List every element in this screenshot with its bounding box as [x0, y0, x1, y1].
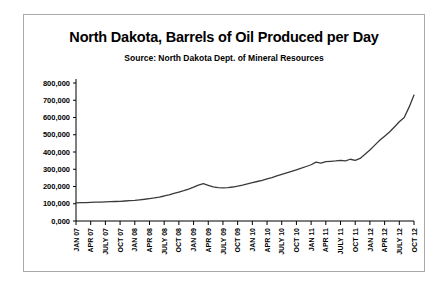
x-axis-tick-label: JAN 09 [190, 228, 197, 252]
y-axis-tick-label: 800,000 [43, 79, 70, 88]
x-axis-tick-label: JAN 07 [73, 228, 80, 252]
x-axis-tick-label: OCT 07 [117, 228, 124, 253]
x-axis-tick-label: JAN 08 [131, 228, 138, 252]
x-axis-tick-label: OCT 12 [411, 228, 418, 253]
x-axis-tick-label: JULY 07 [102, 228, 109, 255]
x-axis-tick-label: JULY 08 [161, 228, 168, 255]
y-axis-tick-label: 400,000 [43, 148, 70, 157]
y-axis-tick-label: 200,000 [43, 182, 70, 191]
x-axis-tick-label: APR 09 [205, 228, 212, 253]
x-axis-tick-label: JAN 12 [367, 228, 374, 252]
x-axis-tick-label: APR 10 [264, 228, 271, 253]
x-axis: JAN 07APR 07JULY 07OCT 07JAN 08APR 08JUL… [73, 221, 418, 255]
x-axis-tick-label: APR 12 [381, 228, 388, 253]
y-axis-tick-label: 700,000 [43, 96, 70, 105]
x-axis-tick-label: JAN 10 [249, 228, 256, 252]
x-axis-tick-label: JAN 11 [308, 228, 315, 251]
x-axis-tick-label: JULY 11 [337, 228, 344, 255]
y-axis-tick-label: 500,000 [43, 130, 70, 139]
oil-production-line [76, 95, 414, 203]
x-axis-tick-label: OCT 10 [293, 228, 300, 253]
x-axis-tick-label: APR 07 [87, 228, 94, 253]
chart-figure: North Dakota, Barrels of Oil Produced pe… [23, 14, 425, 272]
x-axis-tick-label: OCT 11 [352, 228, 359, 252]
x-axis-tick-label: JULY 12 [396, 228, 403, 255]
y-axis-tick-label: 100,000 [43, 199, 70, 208]
x-axis-tick-label: OCT 08 [175, 228, 182, 253]
x-axis-tick-label: JULY 10 [278, 228, 285, 255]
plot-area: 0,000100,000200,000300,000400,000500,000… [24, 15, 426, 273]
y-axis: 0,000100,000200,000300,000400,000500,000… [43, 79, 76, 226]
y-axis-tick-label: 0,000 [51, 217, 70, 226]
y-axis-tick-label: 600,000 [43, 113, 70, 122]
x-axis-tick-label: APR 11 [322, 228, 329, 252]
x-axis-tick-label: JULY 09 [220, 228, 227, 255]
line-chart-svg: 0,000100,000200,000300,000400,000500,000… [24, 15, 426, 273]
y-axis-tick-label: 300,000 [43, 165, 70, 174]
x-axis-tick-label: APR 08 [146, 228, 153, 253]
x-axis-tick-label: OCT 09 [234, 228, 241, 253]
